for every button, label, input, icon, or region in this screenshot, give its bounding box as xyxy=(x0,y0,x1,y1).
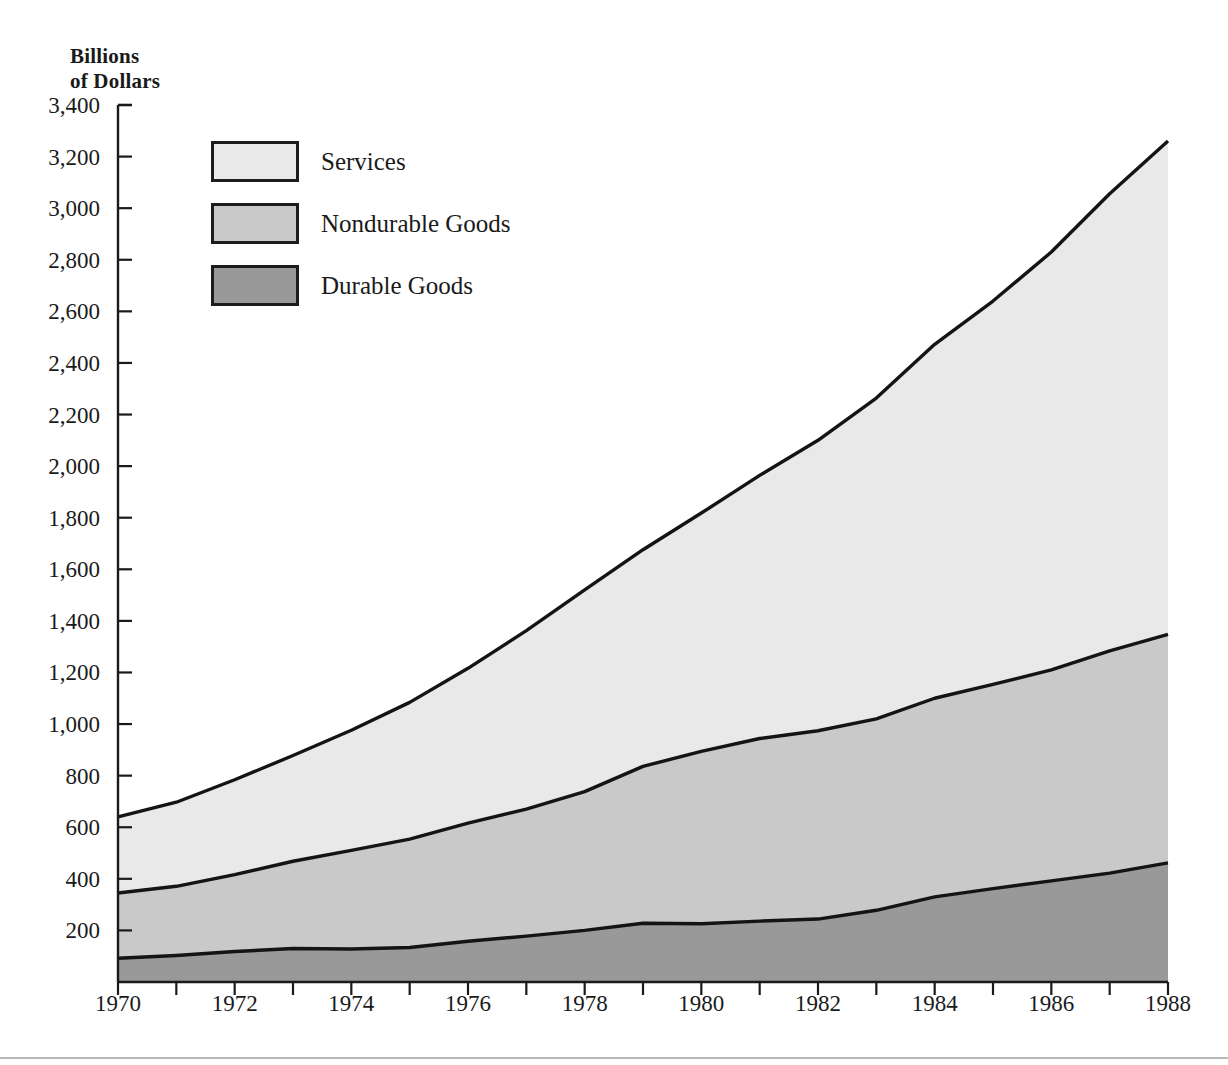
x-tick-label-1986: 1986 xyxy=(1028,991,1074,1017)
legend-label-services: Services xyxy=(321,143,406,180)
y-tick-label-2000: 2,000 xyxy=(14,455,100,478)
footer-divider xyxy=(0,1057,1228,1059)
x-tick-label-1970: 1970 xyxy=(95,991,141,1017)
y-tick-label-1400: 1,400 xyxy=(14,609,100,632)
y-tick-label-2600: 2,600 xyxy=(14,300,100,323)
y-tick-label-2200: 2,200 xyxy=(14,403,100,426)
y-tick-label-400: 400 xyxy=(14,867,100,890)
legend-swatch-durable-goods-icon xyxy=(211,265,299,306)
x-tick-label-1972: 1972 xyxy=(212,991,258,1017)
legend-swatch-nondurable-goods-icon xyxy=(211,203,299,244)
y-tick-label-1800: 1,800 xyxy=(14,506,100,529)
x-tick-label-1988: 1988 xyxy=(1145,991,1191,1017)
y-tick-label-3200: 3,200 xyxy=(14,145,100,168)
x-tick-label-1982: 1982 xyxy=(795,991,841,1017)
stacked-area-chart: Billions of Dollars 2004006008001,0001,2… xyxy=(0,0,1228,1065)
y-tick-label-3000: 3,000 xyxy=(14,197,100,220)
x-tick-label-1984: 1984 xyxy=(912,991,958,1017)
legend-swatch-services-icon xyxy=(211,141,299,182)
x-tick-label-1974: 1974 xyxy=(328,991,374,1017)
plot-area xyxy=(0,0,1228,1065)
y-tick-label-2800: 2,800 xyxy=(14,248,100,271)
y-tick-label-1000: 1,000 xyxy=(14,713,100,736)
y-tick-label-1200: 1,200 xyxy=(14,661,100,684)
x-tick-label-1980: 1980 xyxy=(678,991,724,1017)
x-tick-label-1978: 1978 xyxy=(562,991,608,1017)
x-tick-label-1976: 1976 xyxy=(445,991,491,1017)
y-tick-label-2400: 2,400 xyxy=(14,351,100,374)
y-tick-label-1600: 1,600 xyxy=(14,558,100,581)
y-tick-label-3400: 3,400 xyxy=(14,94,100,117)
y-tick-label-800: 800 xyxy=(14,764,100,787)
legend-label-nondurable-goods: Nondurable Goods xyxy=(321,205,511,242)
legend-label-durable-goods: Durable Goods xyxy=(321,267,473,304)
y-tick-label-200: 200 xyxy=(14,919,100,942)
y-tick-label-600: 600 xyxy=(14,816,100,839)
